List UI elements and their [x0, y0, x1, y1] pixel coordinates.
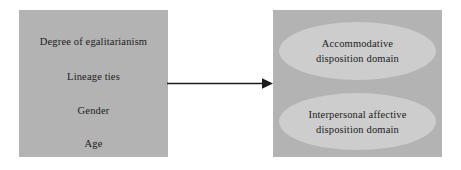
predictors-box: Degree of egalitarianism Lineage ties Ge…	[19, 10, 168, 157]
interpersonal-affective-disposition-domain-ellipse: Interpersonal affective disposition doma…	[279, 93, 436, 150]
interpersonal-affective-domain-label-line-2: disposition domain	[316, 122, 399, 137]
predictor-label-gender: Gender	[19, 105, 168, 116]
arrow-right-icon	[166, 70, 276, 98]
predictor-label-age: Age	[19, 138, 168, 149]
diagram-canvas: Degree of egalitarianism Lineage ties Ge…	[0, 0, 461, 170]
predictor-label-degree-of-egalitarianism: Degree of egalitarianism	[19, 36, 168, 47]
predictor-label-lineage-ties: Lineage ties	[19, 71, 168, 82]
domains-box: Accommodative disposition domain Interpe…	[273, 10, 442, 157]
accommodative-domain-label-line-2: disposition domain	[316, 51, 399, 66]
accommodative-disposition-domain-ellipse: Accommodative disposition domain	[279, 22, 436, 80]
accommodative-domain-label-line-1: Accommodative	[322, 36, 393, 51]
interpersonal-affective-domain-label-line-1: Interpersonal affective	[309, 107, 407, 122]
